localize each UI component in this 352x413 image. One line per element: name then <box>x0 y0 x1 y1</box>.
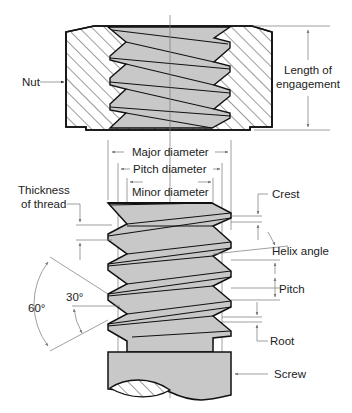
thickness-of-thread-callout: Thickness of thread <box>18 184 112 260</box>
root-callout: Root <box>222 302 295 347</box>
root-label: Root <box>270 335 295 347</box>
screw-label: Screw <box>274 368 307 380</box>
thread-angle-dimension: 60° 30° <box>28 257 120 351</box>
length-of-engagement-label-1: Length of <box>284 64 333 76</box>
angle-30-label: 30° <box>66 291 83 303</box>
pitch-dimension: Pitch <box>231 260 305 300</box>
screw-section <box>108 203 231 400</box>
nut-callout: Nut <box>22 76 64 88</box>
nut-section <box>66 26 272 130</box>
screw-thread-diagram: Nut Length of engagement Major diameter … <box>0 0 352 413</box>
screw-external-thread <box>108 203 231 352</box>
length-of-engagement-label-2: engagement <box>276 78 341 90</box>
thickness-label-1: Thickness <box>18 184 70 196</box>
helix-angle-label: Helix angle <box>272 245 329 257</box>
major-diameter-label: Major diameter <box>132 146 209 158</box>
angle-60-label: 60° <box>28 302 45 314</box>
crest-label: Crest <box>272 188 300 200</box>
crest-callout: Crest <box>231 188 300 240</box>
minor-diameter-label: Minor diameter <box>132 186 209 198</box>
pitch-diameter-label: Pitch diameter <box>133 163 207 175</box>
pitch-label: Pitch <box>279 283 305 295</box>
screw-callout: Screw <box>235 368 307 380</box>
nut-label: Nut <box>22 76 41 88</box>
thickness-label-2: of thread <box>21 198 66 210</box>
